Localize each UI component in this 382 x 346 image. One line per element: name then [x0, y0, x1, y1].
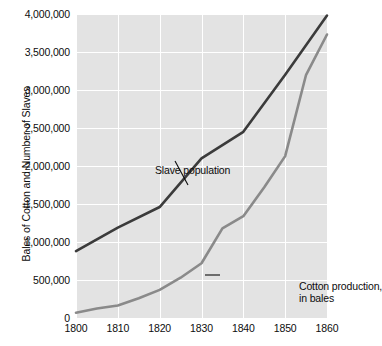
x-axis-tick-label: 1800: [65, 322, 88, 334]
series-line-slave-population: [76, 16, 327, 252]
annotation-slave-population: Slave population: [155, 164, 230, 176]
x-axis-tick-label: 1810: [106, 322, 129, 334]
y-axis-tick-label: 1,000,000: [0, 236, 70, 248]
x-axis-tick-label: 1830: [190, 322, 213, 334]
y-axis-tick-label: 1,500,000: [0, 198, 70, 210]
y-axis-tick-label: 2,000,000: [0, 160, 70, 172]
x-axis-tick-label: 1840: [232, 322, 255, 334]
y-axis-tick-label: 500,000: [0, 274, 70, 286]
y-axis-tick-label: 3,500,000: [0, 46, 70, 58]
y-axis-tick-label: 0: [0, 312, 70, 324]
plot-area: Slave population Cotton production, in b…: [76, 14, 327, 318]
annotation-cotton-line2: in bales: [299, 292, 334, 304]
annotation-cotton-production: Cotton production, in bales: [299, 280, 382, 304]
annotation-cotton-line1: Cotton production,: [299, 280, 382, 292]
x-axis-tick-label: 1850: [274, 322, 297, 334]
x-axis-tick-label: 1820: [148, 322, 171, 334]
gridline-vertical: [327, 14, 328, 318]
x-axis-tick-label: 1860: [316, 322, 339, 334]
y-axis-tick-label: 4,000,000: [0, 8, 70, 20]
y-axis-tick-label: 3,000,000: [0, 84, 70, 96]
y-axis-tick-label: 2,500,000: [0, 122, 70, 134]
